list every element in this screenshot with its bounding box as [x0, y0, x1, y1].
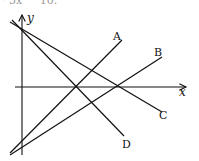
- line-a: [10, 40, 122, 153]
- line-c: [10, 22, 162, 112]
- line-b-label: B: [154, 46, 162, 59]
- y-axis-label: y: [26, 11, 34, 25]
- line-d: [12, 20, 124, 136]
- line-a-label: A: [112, 30, 122, 43]
- line-graph-diagram: y x A B C D: [0, 0, 199, 161]
- line-b: [10, 57, 162, 155]
- line-d-label: D: [122, 138, 131, 151]
- line-c-label: C: [159, 109, 167, 122]
- x-axis-label: x: [179, 85, 186, 99]
